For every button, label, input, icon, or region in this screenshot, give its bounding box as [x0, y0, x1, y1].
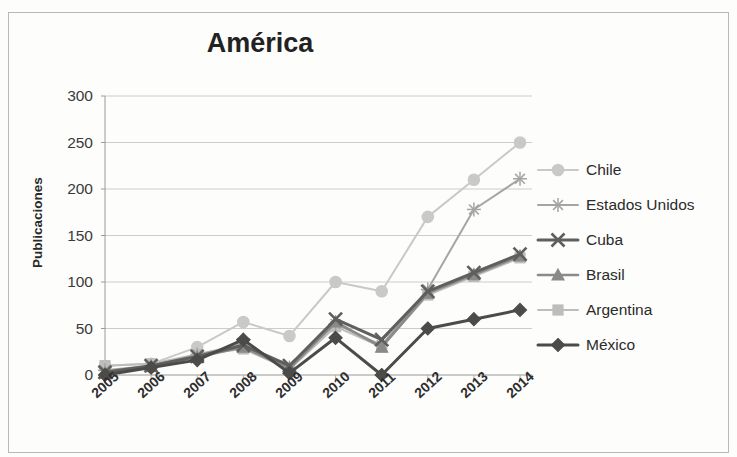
- legend-item-chile[interactable]: Chile: [536, 152, 731, 187]
- legend-item-estados-unidos[interactable]: Estados Unidos: [536, 187, 731, 222]
- legend-label: Estados Unidos: [586, 197, 695, 213]
- data-point-marker: [551, 198, 565, 212]
- chart-legend: ChileEstados UnidosCubaBrasilArgentinaMé…: [536, 152, 731, 362]
- data-point-marker: [238, 316, 249, 327]
- data-point-marker: [467, 313, 480, 326]
- chart-page: América Publicaciones 050100150200250300…: [0, 0, 737, 457]
- legend-item-argentina[interactable]: Argentina: [536, 292, 731, 327]
- legend-label: Chile: [586, 162, 621, 178]
- data-point-marker: [513, 172, 527, 186]
- series-line: [105, 258, 520, 370]
- legend-marker-icon: [536, 337, 580, 353]
- data-point-marker: [514, 137, 525, 148]
- data-point-marker: [422, 211, 433, 222]
- data-point-marker: [330, 276, 341, 287]
- legend-marker-icon: [536, 302, 580, 318]
- data-point-marker: [552, 164, 563, 175]
- data-point-marker: [376, 286, 387, 297]
- data-point-marker: [467, 202, 481, 216]
- legend-item-cuba[interactable]: Cuba: [536, 222, 731, 257]
- legend-marker-icon: [536, 162, 580, 178]
- legend-item-brasil[interactable]: Brasil: [536, 257, 731, 292]
- data-point-marker: [552, 338, 565, 351]
- data-point-marker: [553, 305, 563, 315]
- data-point-marker: [514, 303, 527, 316]
- legend-label: Cuba: [586, 232, 623, 248]
- data-point-marker: [284, 330, 295, 341]
- legend-marker-icon: [536, 267, 580, 283]
- data-point-marker: [468, 174, 479, 185]
- legend-item-méxico[interactable]: México: [536, 327, 731, 362]
- legend-marker-icon: [536, 197, 580, 213]
- legend-label: Argentina: [586, 302, 652, 318]
- legend-label: México: [586, 337, 635, 353]
- series-line: [105, 143, 520, 366]
- legend-label: Brasil: [586, 267, 625, 283]
- series-chile: [99, 137, 525, 371]
- legend-marker-icon: [536, 232, 580, 248]
